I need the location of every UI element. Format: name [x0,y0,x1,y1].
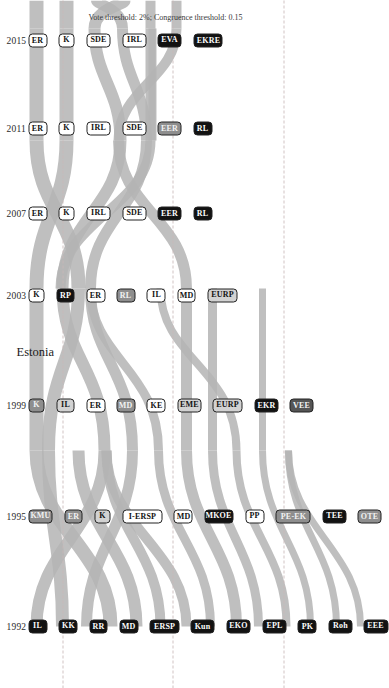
node-label: IRL [90,124,105,132]
node-label: ER [32,124,44,132]
node-2015-sde[interactable]: SDE [86,33,110,47]
node-1992-eee[interactable]: EEE [363,619,387,633]
node-label: KMU [30,512,50,520]
node-1992-kk[interactable]: KK [58,619,77,633]
gridline [172,0,173,688]
year-tick-1992: 1992 [6,621,26,631]
node-1992-kun[interactable]: Kun [190,619,214,633]
node-2011-irl[interactable]: IRL [86,121,110,135]
node-1995-k[interactable]: K [94,509,110,523]
flow-ribbons [0,0,389,688]
node-label: PE-EK [280,512,305,520]
node-label: RL [120,291,132,299]
node-label: KK [61,622,74,630]
node-1995-i-ersp[interactable]: I-ERSP [122,509,162,523]
node-1995-kmu[interactable]: KMU [28,509,52,523]
node-label: EURP [216,401,239,409]
node-1999-er[interactable]: ER [86,398,105,412]
node-label: K [33,291,39,299]
node-2003-er[interactable]: ER [86,288,105,302]
node-1999-ekr[interactable]: EKR [254,398,278,412]
node-label: K [99,512,105,520]
node-label: Roh [332,622,347,630]
node-1999-eme[interactable]: EME [177,398,201,412]
node-label: EEE [367,622,384,630]
country-title: Estonia [16,344,54,359]
node-label: EKO [229,622,247,630]
node-2003-rl[interactable]: RL [116,288,135,302]
node-label: Kun [195,622,211,630]
node-1992-eko[interactable]: EKO [226,619,250,633]
node-1992-roh[interactable]: Roh [328,619,352,633]
node-label: ER [32,209,44,217]
node-1999-k[interactable]: K [28,398,44,412]
node-2003-k[interactable]: K [28,288,44,302]
figure-canvas: 1992ILKKRRMDERSPKunEKOEPLPKRohEEE1995KMU… [0,0,389,688]
node-2007-eer[interactable]: EER [157,206,181,220]
year-tick-2011: 2011 [6,123,25,133]
node-2003-il[interactable]: IL [146,288,165,302]
node-2007-irl[interactable]: IRL [86,206,110,220]
node-label: I-ERSP [128,512,155,520]
node-1999-md[interactable]: MD [116,398,135,412]
node-2007-k[interactable]: K [58,206,74,220]
node-2003-eurp[interactable]: EURP [207,288,237,302]
node-2003-md[interactable]: MD [177,288,196,302]
node-2011-eer[interactable]: EER [157,121,181,135]
node-2011-k[interactable]: K [58,121,74,135]
node-label: VEE [293,401,310,409]
node-label: RP [59,291,70,299]
node-label: SDE [126,209,142,217]
node-1995-er[interactable]: ER [64,509,83,523]
node-1999-eurp[interactable]: EURP [212,398,242,412]
node-label: ERSP [153,622,174,630]
node-2011-rl[interactable]: RL [193,121,212,135]
node-1995-pe-ek[interactable]: PE-EK [275,509,310,523]
node-2007-rl[interactable]: RL [193,206,212,220]
node-label: EKR [257,401,275,409]
node-label: IL [33,622,42,630]
node-1995-pp[interactable]: PP [245,509,264,523]
node-label: K [63,209,69,217]
node-label: MD [119,401,133,409]
node-1992-ersp[interactable]: ERSP [149,619,179,633]
node-2011-er[interactable]: ER [28,121,47,135]
year-tick-2015: 2015 [6,35,26,45]
node-1992-md[interactable]: MD [119,619,138,633]
node-2015-eva[interactable]: EVA [157,33,181,47]
year-tick-2003: 2003 [6,290,26,300]
year-tick-1995: 1995 [6,511,26,521]
node-1992-il[interactable]: IL [28,619,47,633]
node-1992-pk[interactable]: PK [297,619,316,633]
node-2007-er[interactable]: ER [28,206,47,220]
node-1999-ke[interactable]: KE [146,398,165,412]
gridline [283,0,284,688]
node-2015-ekre[interactable]: EKRE [193,33,223,47]
node-2011-sde[interactable]: SDE [122,121,146,135]
node-1995-ote[interactable]: OTE [357,509,381,523]
node-label: MD [176,512,190,520]
node-1999-il[interactable]: IL [56,398,75,412]
node-label: IRL [90,209,105,217]
node-1995-mkoe[interactable]: MKOE [204,509,234,523]
node-2015-k[interactable]: K [58,33,74,47]
node-1995-md[interactable]: MD [173,509,192,523]
node-label: ER [89,291,101,299]
node-1999-vee[interactable]: VEE [289,398,313,412]
node-2007-sde[interactable]: SDE [122,206,146,220]
node-1992-epl[interactable]: EPL [262,619,286,633]
node-label: K [33,401,39,409]
node-1992-rr[interactable]: RR [89,619,108,633]
node-2003-rp[interactable]: RP [56,288,75,302]
node-label: TEE [325,512,342,520]
node-1995-tee[interactable]: TEE [322,509,346,523]
node-2015-er[interactable]: ER [28,33,47,47]
figure-footnote: Vote threshold: 2%; Congruence threshold… [88,12,242,21]
node-label: ER [89,401,101,409]
year-tick-1999: 1999 [6,400,26,410]
year-tick-2007: 2007 [6,208,26,218]
node-label: EER [161,124,178,132]
node-label: IRL [126,36,141,44]
node-label: OTE [361,512,379,520]
node-2015-irl[interactable]: IRL [122,33,146,47]
